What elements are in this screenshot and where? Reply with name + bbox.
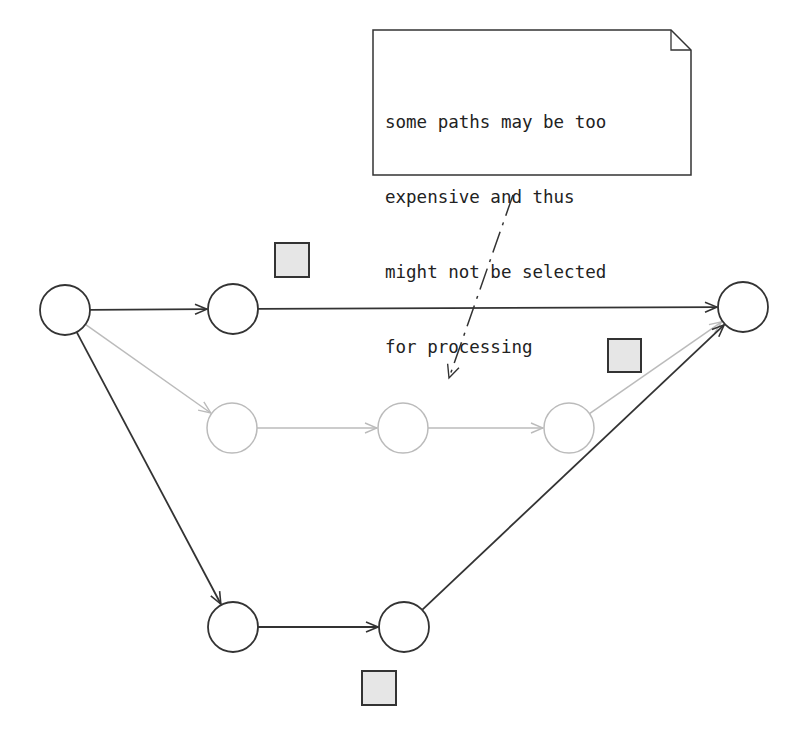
edge-A-C bbox=[85, 324, 210, 413]
node-G bbox=[208, 602, 258, 652]
node-B bbox=[208, 284, 258, 334]
node-D bbox=[378, 403, 428, 453]
cost-square-3 bbox=[362, 671, 396, 705]
node-E bbox=[544, 403, 594, 453]
node-A bbox=[40, 285, 90, 335]
node-H bbox=[379, 602, 429, 652]
note-line: expensive and thus bbox=[385, 185, 675, 210]
note-text: some paths may be too expensive and thus… bbox=[385, 60, 675, 385]
cost-square-1 bbox=[275, 243, 309, 277]
edge-A-G bbox=[77, 332, 221, 604]
edge-A-B bbox=[90, 309, 207, 310]
note-line: for processing bbox=[385, 335, 675, 360]
note-line: some paths may be too bbox=[385, 110, 675, 135]
note-line: might not be selected bbox=[385, 260, 675, 285]
node-C bbox=[207, 403, 257, 453]
node-F bbox=[718, 282, 768, 332]
